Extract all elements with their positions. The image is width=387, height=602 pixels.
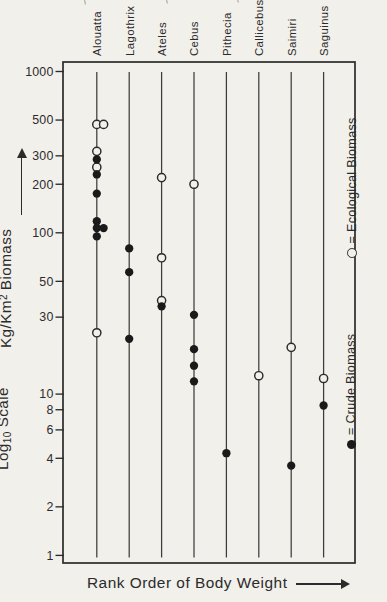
x-axis-arrow-icon [296, 579, 350, 589]
point-crude-cebus [190, 311, 198, 319]
point-ecological-alouatta [93, 329, 101, 337]
y-tick-label: 50 [39, 275, 53, 289]
y-axis-arrow-icon [17, 148, 27, 158]
point-crude-ateles [157, 302, 165, 310]
point-ecological-alouatta [93, 163, 101, 171]
column-label-saguinus: Saguinus [318, 5, 330, 56]
y-tick-label: 1000 [25, 65, 53, 79]
point-crude-alouatta [93, 155, 101, 163]
biomass-chart: 100050030020010050301086421AlouattaLagot… [0, 0, 387, 602]
point-crude-alouatta [99, 224, 107, 232]
point-ecological-ateles [158, 173, 166, 181]
point-ecological-saguinus [320, 374, 328, 382]
point-ecological-cebus [190, 180, 198, 188]
scale-label-rest: Scale [0, 387, 11, 427]
legend-crude-label: = Crude Biomass [343, 334, 359, 435]
y-axis-label-main: Kg/Km [0, 300, 14, 348]
filled-circle-icon [347, 440, 356, 449]
point-ecological-saimiri [287, 343, 295, 351]
open-circle-icon [347, 248, 357, 258]
point-ecological-callicebus [255, 372, 263, 380]
legend-ecological-label: = Ecological Biomass [344, 117, 360, 243]
point-crude-lagothrix [125, 268, 133, 276]
y-tick-label: 10 [39, 387, 53, 401]
x-axis-label: Rank Order of Body Weight [87, 574, 350, 592]
point-crude-pithecia [222, 449, 230, 457]
scan-artifact [167, 0, 168, 4]
point-crude-cebus [190, 377, 198, 385]
column-label-ateles: Ateles [156, 22, 168, 56]
y-tick-label: 300 [32, 149, 53, 163]
point-crude-alouatta [93, 170, 101, 178]
point-ecological-alouatta [100, 120, 108, 128]
y-tick-label: 4 [46, 452, 53, 466]
plot-frame [63, 62, 355, 563]
point-crude-cebus [190, 362, 198, 370]
scale-label-subscript: 10 [0, 431, 16, 443]
point-ecological-alouatta [93, 147, 101, 155]
y-tick-label: 2 [46, 500, 53, 514]
scan-artifact [85, 0, 86, 5]
scan-artifact [238, 0, 239, 3]
y-axis-label-scale: Log10Scale [0, 387, 11, 470]
legend-ecological: = Ecological Biomass [344, 117, 360, 258]
x-axis-label-text: Rank Order of Body Weight [87, 574, 287, 592]
column-label-lagothrix: Lagothrix [124, 6, 136, 56]
point-crude-saimiri [287, 462, 295, 470]
point-crude-lagothrix [125, 244, 133, 252]
column-label-callicebus: Callicebus [253, 0, 265, 56]
point-crude-cebus [190, 345, 198, 353]
y-axis-label-biomass: Kg/Km2Biomass [0, 229, 14, 348]
point-crude-saguinus [319, 401, 327, 409]
column-label-alouatta: Alouatta [91, 11, 103, 56]
y-tick-label: 100 [32, 226, 53, 240]
y-tick-label: 1 [46, 549, 53, 563]
column-label-cebus: Cebus [188, 21, 200, 56]
y-tick-label: 200 [32, 178, 53, 192]
column-label-pithecia: Pithecia [221, 12, 233, 56]
legend-crude: = Crude Biomass [343, 334, 359, 449]
biomass-figure: 100050030020010050301086421AlouattaLagot… [0, 0, 387, 602]
point-crude-lagothrix [125, 335, 133, 343]
y-tick-label: 500 [32, 113, 53, 127]
column-label-saimiri: Saimiri [286, 18, 298, 56]
y-axis-label-rest: Biomass [0, 229, 14, 290]
y-tick-label: 8 [46, 403, 53, 417]
y-tick-label: 30 [39, 310, 53, 324]
point-ecological-ateles [158, 254, 166, 262]
y-axis-arrow-line [21, 158, 23, 215]
point-crude-alouatta [93, 189, 101, 197]
scale-label-main: Log [0, 443, 11, 470]
point-crude-alouatta [93, 232, 101, 240]
y-axis-label-superscript: 2 [0, 294, 12, 300]
y-tick-label: 6 [46, 423, 53, 437]
